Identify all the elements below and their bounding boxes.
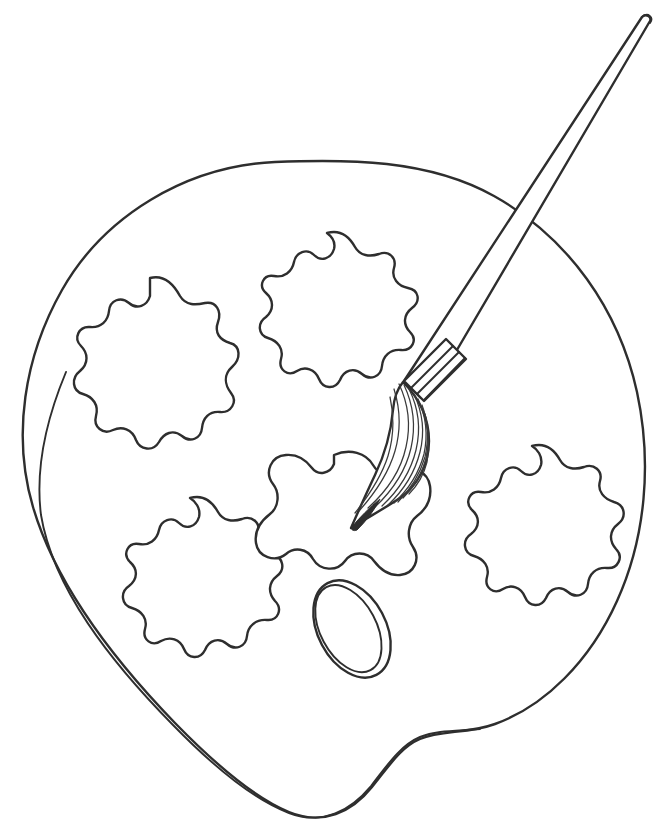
palette-line-drawing: Artist palette with paintbrush — [0, 0, 662, 837]
drawing-canvas: Coloring-page style outline of an artist… — [0, 0, 662, 837]
